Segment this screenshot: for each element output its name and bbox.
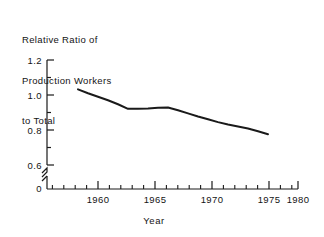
chart-container: Relative Ratio of Production Workers to … [0, 0, 324, 237]
x-tick-label-1970: 1970 [201, 194, 224, 205]
x-tick-label-1975: 1975 [258, 194, 281, 205]
data-series-line [78, 89, 268, 134]
y-tick-label-0.8: 0.8 [28, 125, 42, 136]
x-tick-label-1960: 1960 [87, 194, 110, 205]
x-axis-title: Year [143, 215, 165, 226]
y-tick-label-0.6: 0.6 [28, 160, 42, 171]
y-tick-label-1.2: 1.2 [28, 55, 42, 66]
x-axis-title-wrap: Year [0, 215, 324, 226]
x-tick-label-1965: 1965 [144, 194, 167, 205]
y-axis-break-icon [42, 168, 47, 177]
y-tick-label-0: 0 [36, 183, 42, 194]
y-tick-label-1.0: 1.0 [28, 90, 42, 101]
chart-plot-area: 1.2 1.0 0.8 0.6 0 1960 1965 1970 1975 19… [0, 0, 324, 237]
x-tick-label-1980: 1980 [287, 194, 310, 205]
